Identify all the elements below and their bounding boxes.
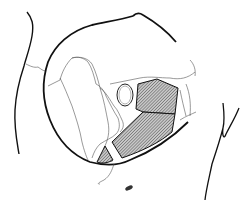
- right-contour-line: [205, 103, 239, 200]
- left-branch-line: [26, 64, 46, 71]
- left-contour-line: [15, 12, 33, 154]
- oval-foramen: [117, 84, 133, 106]
- small-hatched-triangle: [97, 146, 113, 163]
- anatomical-diagram: [0, 0, 249, 216]
- right-inner-line: [180, 84, 196, 120]
- inner-line-2: [60, 78, 88, 160]
- inner-line-1: [48, 57, 96, 86]
- inner-line-3: [72, 57, 109, 148]
- small-dark-mark: [125, 184, 134, 191]
- upper-hatched-region: [136, 79, 178, 114]
